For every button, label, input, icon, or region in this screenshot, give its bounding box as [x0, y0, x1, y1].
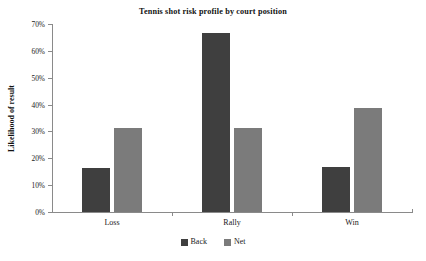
y-axis-tick — [48, 51, 52, 52]
y-axis-tick-label: 70% — [31, 20, 45, 29]
bar-rally-back — [202, 33, 230, 212]
bar-loss-back — [82, 168, 110, 212]
y-axis-tick — [48, 212, 52, 213]
y-axis-tick-label: 10% — [31, 181, 45, 190]
x-axis-separator-tick — [172, 212, 173, 216]
chart-title: Tennis shot risk profile by court positi… — [0, 7, 426, 16]
y-axis-tick-label: 40% — [31, 100, 45, 109]
y-axis-tick-label: 50% — [31, 73, 45, 82]
legend-swatch-icon — [224, 239, 231, 246]
y-axis-tick — [48, 105, 52, 106]
y-axis-line — [52, 24, 53, 213]
legend-swatch-icon — [181, 239, 188, 246]
x-axis-separator-tick — [292, 212, 293, 216]
y-axis-tick — [48, 158, 52, 159]
x-axis-category-label: Loss — [104, 218, 119, 227]
legend: BackNet — [0, 238, 426, 246]
x-axis-end-tick — [412, 209, 413, 213]
legend-entry-back[interactable]: Back — [181, 238, 207, 246]
y-axis-tick-label: 60% — [31, 46, 45, 55]
y-axis-tick — [48, 131, 52, 132]
bar-win-back — [322, 167, 350, 212]
y-axis-tick-label: 0% — [35, 208, 45, 217]
x-axis-line — [52, 212, 412, 213]
y-axis-tick — [48, 185, 52, 186]
x-axis-category-label: Win — [345, 218, 358, 227]
y-axis-title-text: Likelihood of result — [7, 85, 16, 152]
x-axis-category-label: Rally — [223, 218, 240, 227]
y-axis-title: Likelihood of result — [4, 24, 18, 212]
bar-chart: Tennis shot risk profile by court positi… — [0, 0, 426, 261]
bar-rally-net — [234, 128, 262, 212]
legend-entry-net[interactable]: Net — [224, 238, 246, 246]
y-axis-tick-label: 20% — [31, 154, 45, 163]
y-axis-tick — [48, 24, 52, 25]
bar-loss-net — [114, 128, 142, 212]
legend-label: Back — [191, 238, 207, 246]
y-axis-tick — [48, 78, 52, 79]
legend-label: Net — [234, 238, 246, 246]
bar-win-net — [354, 108, 382, 212]
y-axis-tick-label: 30% — [31, 127, 45, 136]
